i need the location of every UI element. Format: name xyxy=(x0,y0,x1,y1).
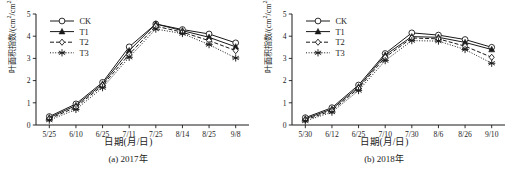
legend-marker xyxy=(315,18,321,24)
legend-entry-t1: T1 xyxy=(306,28,345,37)
data-point xyxy=(489,54,494,60)
legend-entry-t3: T3 xyxy=(50,49,89,58)
panel-2017: 0123455/256/106/257/117/258/148/259/8CKT… xyxy=(0,0,256,175)
legend-entry-t2: T2 xyxy=(306,38,345,47)
legend-label: T2 xyxy=(80,38,89,47)
legend-marker xyxy=(59,18,65,24)
panel-2018: 0123455/306/126/257/107/308/68/269/10CKT… xyxy=(256,0,512,175)
legend-entry-ck: CK xyxy=(306,17,347,26)
legend-label: T1 xyxy=(80,28,89,37)
legend-marker xyxy=(59,39,64,45)
y-axis-tick-label: 1 xyxy=(27,99,31,108)
legend-entry-t2: T2 xyxy=(50,38,89,47)
panel-caption: (a) 2017年 xyxy=(0,152,256,165)
chart-plot-2018: 0123455/306/126/257/107/308/68/269/10CKT… xyxy=(256,0,512,140)
legend-entry-t1: T1 xyxy=(50,28,89,37)
legend-marker xyxy=(315,39,320,45)
legend-label: T3 xyxy=(336,49,345,58)
legend-entry-t3: T3 xyxy=(306,49,345,58)
legend-label: T3 xyxy=(80,49,89,58)
panel-caption: (b) 2018年 xyxy=(256,152,512,165)
y-axis-tick-label: 0 xyxy=(283,121,287,130)
y-axis-tick-label: 3 xyxy=(27,54,31,63)
y-axis-tick-label: 5 xyxy=(27,10,31,19)
series-t3 xyxy=(302,37,495,124)
legend-label: T2 xyxy=(336,38,345,47)
y-axis-tick-label: 5 xyxy=(283,10,287,19)
legend-label: CK xyxy=(80,17,92,26)
legend-label: CK xyxy=(336,17,348,26)
legend-marker xyxy=(315,50,321,56)
data-point xyxy=(206,41,212,47)
y-axis-tick-label: 1 xyxy=(283,99,287,108)
y-axis-tick-label: 2 xyxy=(283,76,287,85)
data-point xyxy=(232,55,238,61)
x-axis-title: 日期(月/日) xyxy=(256,134,512,148)
y-axis-title: 叶面积指数/(cm2/cm2) xyxy=(262,0,273,89)
chart-plot-2017: 0123455/256/106/257/117/258/148/259/8CKT… xyxy=(0,0,256,140)
y-axis-tick-label: 0 xyxy=(27,121,31,130)
y-axis-tick-label: 4 xyxy=(283,32,287,41)
x-axis-title: 日期(月/日) xyxy=(0,134,256,148)
legend-label: T1 xyxy=(336,28,345,37)
y-axis-title: 叶面积指数/(cm2/cm2) xyxy=(6,0,17,89)
y-axis-tick-label: 4 xyxy=(27,32,31,41)
y-axis-tick-label: 3 xyxy=(283,54,287,63)
figure-two-panel: 0123455/256/106/257/117/258/148/259/8CKT… xyxy=(0,0,512,175)
y-axis-tick-label: 2 xyxy=(27,76,31,85)
legend-entry-ck: CK xyxy=(50,17,91,26)
data-point xyxy=(488,60,494,66)
legend-marker xyxy=(59,50,65,56)
